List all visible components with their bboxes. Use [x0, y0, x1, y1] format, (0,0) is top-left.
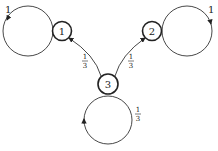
self-loop-2	[162, 6, 212, 56]
edge-3-to-1-fraction: 1 3	[82, 53, 88, 70]
svg-text:1: 1	[83, 53, 87, 61]
node-1: 1	[53, 22, 72, 41]
node-3-label: 3	[105, 79, 111, 90]
svg-text:3: 3	[129, 62, 133, 70]
edge-3-to-2-fraction: 1 3	[128, 53, 134, 70]
self-loop-2-arrow-icon	[210, 20, 211, 24]
node-2-label: 2	[149, 26, 155, 37]
self-loop-3	[84, 96, 132, 144]
node-2: 2	[143, 22, 162, 41]
node-1-label: 1	[59, 26, 65, 37]
svg-text:3: 3	[136, 115, 140, 123]
svg-text:3: 3	[83, 62, 87, 70]
self-loop-3-fraction: 1 3	[135, 106, 141, 123]
self-loop-1-label: 1	[5, 4, 11, 15]
svg-text:1: 1	[136, 106, 140, 114]
markov-diagram: 1 2 3 1 1 1 3 1 3 1 3	[0, 0, 218, 151]
node-3: 3	[98, 74, 118, 94]
svg-text:1: 1	[129, 53, 133, 61]
self-loop-2-label: 1	[208, 4, 214, 15]
